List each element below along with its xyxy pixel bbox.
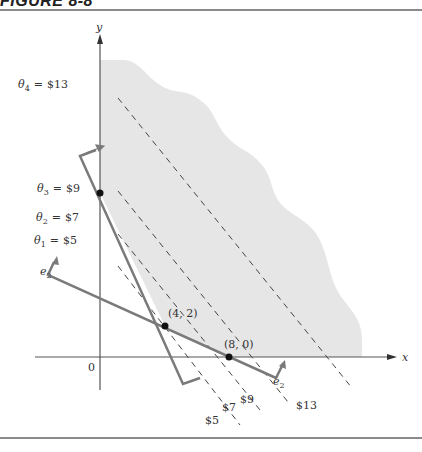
lp-diagram: y x 0 (4, 2) (8, 0) θ4=$13 θ3=$9 θ2=$7 θ… [0,0,422,452]
origin-label: 0 [88,361,95,374]
bottom-label-13: $13 [296,399,317,412]
bottom-label-9: $9 [240,393,254,406]
point-4-2 [162,323,169,330]
y-axis-arrow-icon [97,34,103,44]
x-axis-arrow-icon [387,354,397,360]
e2-left-arrow-icon [52,256,59,265]
bottom-label-5: $5 [205,414,219,427]
feasible-region [100,60,362,357]
point-8-0 [226,354,233,361]
point-0-10 [97,190,104,197]
e2-left-label: e2 [40,265,52,280]
theta4-label: θ4=$13 [18,78,68,93]
y-axis-label: y [95,21,103,34]
point-label-8-0: (8, 0) [224,338,254,351]
point-label-4-2: (4, 2) [168,307,198,320]
bottom-label-7: $7 [222,401,236,414]
theta1-label: θ1=$5 [34,234,77,249]
e2-right-label: e2 [273,375,285,390]
theta2-label: θ2=$7 [36,211,79,226]
x-axis-label: x [402,351,409,364]
theta3-label: θ3=$9 [37,182,80,197]
